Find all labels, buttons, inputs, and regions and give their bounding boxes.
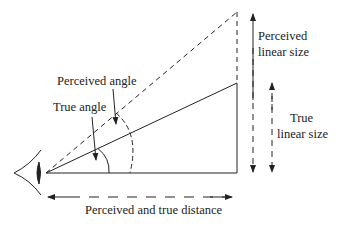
true-size-label-1: True <box>290 111 314 125</box>
true-sight-line <box>46 83 237 173</box>
perceived-angle-label: Perceived angle <box>57 74 137 88</box>
perceived-angle-arc <box>116 113 133 173</box>
true-angle-arc <box>98 149 109 174</box>
perceived-size-label-2: linear size <box>258 45 309 59</box>
perceived-sight-line <box>46 12 237 173</box>
perceived-angle-pointer <box>113 89 116 124</box>
true-angle-label: True angle <box>53 100 107 114</box>
true-size-label-2: linear size <box>277 127 328 141</box>
eye-icon <box>14 150 41 195</box>
perceived-size-label-1: Perceived <box>258 29 308 43</box>
distance-label: Perceived and true distance <box>85 203 223 217</box>
visual-angle-diagram: Perceived angle True angle Perceived lin… <box>0 0 337 227</box>
true-angle-pointer <box>92 117 96 160</box>
